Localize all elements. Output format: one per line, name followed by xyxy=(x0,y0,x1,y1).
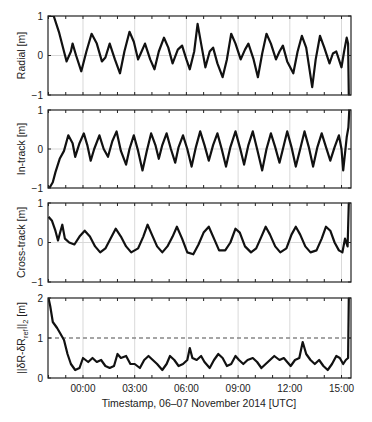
x-tick-label: 15:00 xyxy=(329,383,354,394)
panel-norm: 210||δR-δRref||2 [m] xyxy=(15,293,351,384)
y-tick-label: 0 xyxy=(37,237,43,248)
y-tick-label: 1 xyxy=(37,198,43,209)
series-line xyxy=(49,203,349,254)
x-tick-label: 06:00 xyxy=(174,383,199,394)
y-tick-label: 1 xyxy=(37,333,43,344)
y-tick-label: 1 xyxy=(37,11,43,22)
y-tick-label: 1 xyxy=(37,105,43,116)
y-tick-label: 0 xyxy=(37,144,43,155)
chart-figure: 10−1Radial [m]10−1In-track [m]10−1Cross-… xyxy=(0,0,372,422)
y-axis-label: Cross-track [m] xyxy=(15,207,27,278)
y-tick-label: 2 xyxy=(37,293,43,304)
x-tick-label: 09:00 xyxy=(226,383,251,394)
panel-cross-track: 10−1Cross-track [m] xyxy=(15,198,351,288)
y-axis-label: ||δR-δRref||2 [m] xyxy=(15,302,30,374)
y-axis-label: Radial [m] xyxy=(15,32,27,79)
panel-in-track: 10−1In-track [m] xyxy=(15,105,351,194)
series-line xyxy=(49,298,349,370)
y-tick-label: −1 xyxy=(32,277,44,288)
x-tick-labels: 00:0003:0006:0009:0012:0015:00 xyxy=(70,383,354,394)
y-tick-label: −1 xyxy=(32,183,44,194)
panel-radial: 10−1Radial [m] xyxy=(15,11,351,101)
x-tick-label: 03:00 xyxy=(122,383,147,394)
x-tick-label: 00:00 xyxy=(70,383,95,394)
y-tick-label: 0 xyxy=(37,50,43,61)
y-tick-label: 0 xyxy=(37,373,43,384)
x-tick-label: 12:00 xyxy=(277,383,302,394)
x-axis-label: Timestamp, 06–07 November 2014 [UTC] xyxy=(102,397,297,409)
y-tick-label: −1 xyxy=(32,90,44,101)
y-axis-label: In-track [m] xyxy=(15,123,27,176)
